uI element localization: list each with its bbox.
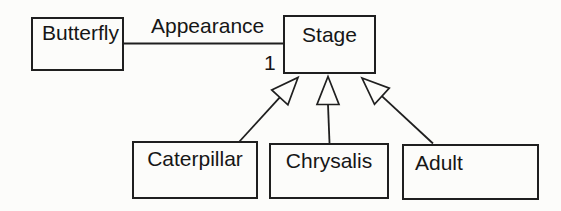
class-box-adult: Adult — [402, 144, 539, 200]
class-label-caterpillar: Caterpillar — [147, 147, 243, 170]
uml-diagram-canvas: Butterfly Stage Caterpillar Chrysalis Ad… — [0, 0, 561, 211]
class-label-stage: Stage — [302, 23, 357, 46]
class-box-butterfly: Butterfly — [31, 17, 124, 71]
class-label-chrysalis: Chrysalis — [286, 149, 372, 172]
class-box-stage: Stage — [283, 15, 376, 74]
generalization-line-caterpillar — [239, 97, 280, 142]
class-box-chrysalis: Chrysalis — [269, 143, 389, 199]
generalization-line-adult — [382, 96, 433, 143]
class-label-butterfly: Butterfly — [42, 21, 119, 44]
class-label-adult: Adult — [415, 151, 463, 174]
generalization-arrowhead-icon — [317, 77, 339, 105]
association-multiplicity: 1 — [264, 52, 276, 74]
association-label: Appearance — [151, 15, 264, 37]
generalization-line-chrysalis — [328, 105, 330, 144]
class-box-caterpillar: Caterpillar — [132, 141, 258, 199]
